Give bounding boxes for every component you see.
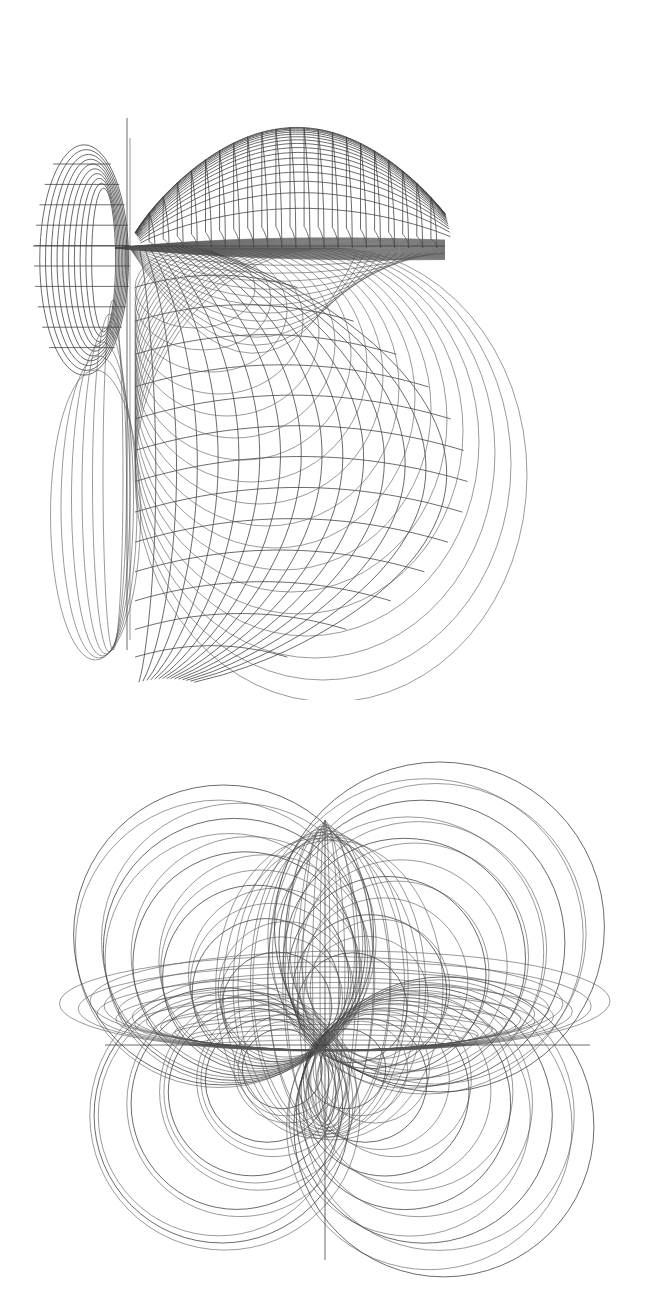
butterfly-circles-drawing: [0, 700, 659, 1305]
wireframe-surface-drawing: [0, 0, 659, 700]
top-figure: [0, 0, 659, 700]
bottom-figure: [0, 700, 659, 1305]
